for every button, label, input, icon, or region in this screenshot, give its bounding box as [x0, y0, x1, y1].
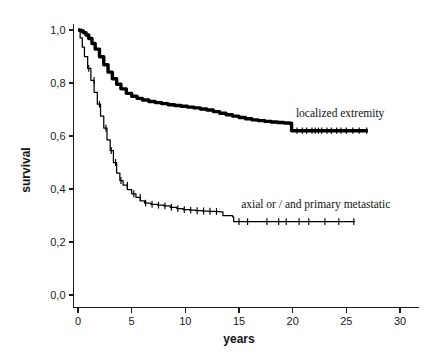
x-tick-label-3: 15 [233, 315, 245, 327]
x-tick-label-5: 25 [340, 315, 352, 327]
x-tick-label-4: 20 [287, 315, 299, 327]
survival-chart-figure: 0,00,20,40,60,81,0051015202530 localized… [0, 0, 434, 356]
axes-group [74, 24, 419, 308]
x-axis-title: years [223, 332, 255, 346]
x-tick-label-2: 10 [179, 315, 191, 327]
axis-tick-labels-group: 0,00,20,40,60,81,0051015202530 [50, 24, 406, 327]
x-tick-label-0: 0 [75, 315, 81, 327]
y-tick-label-4: 0,8 [50, 77, 65, 89]
y-axis-title: survival [19, 147, 33, 192]
x-tick-label-1: 5 [129, 315, 135, 327]
y-tick-label-3: 0,6 [50, 130, 65, 142]
survival-curve-1 [78, 30, 355, 222]
series-label-0: localized extremity [296, 107, 385, 120]
y-tick-label-2: 0,4 [50, 183, 65, 195]
y-tick-label-0: 0,0 [50, 289, 65, 301]
x-tick-label-6: 30 [394, 315, 406, 327]
y-tick-label-5: 1,0 [50, 24, 65, 36]
survival-curves-group [78, 30, 368, 222]
kaplan-meier-plot: 0,00,20,40,60,81,0051015202530 localized… [0, 0, 434, 356]
axis-ticks-group [69, 30, 400, 313]
series-label-1: axial or / and primary metastatic [241, 198, 390, 211]
y-tick-label-1: 0,2 [50, 236, 65, 248]
